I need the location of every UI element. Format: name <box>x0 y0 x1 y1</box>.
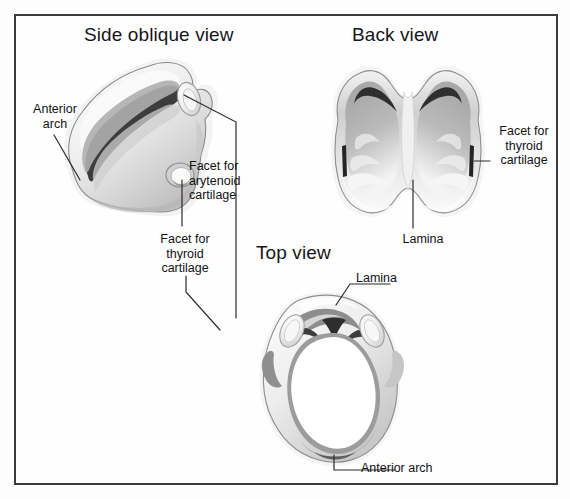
label-lamina-back: Lamina <box>396 232 450 247</box>
label-anterior-arch-side: Anterior arch <box>22 102 88 131</box>
label-facet-for-thyroid-cartilage-side: Facet for thyroid cartilage <box>150 232 220 276</box>
figure-root: Side oblique view Back view Top view Ant… <box>0 0 570 499</box>
view-title-side-oblique: Side oblique view <box>84 24 234 46</box>
label-lamina-top: Lamina <box>356 271 410 286</box>
label-facet-for-arytenoid-cartilage: Facet for arytenoid cartilage <box>189 159 261 203</box>
label-facet-for-thyroid-cartilage-back: Facet for thyroid cartilage <box>492 124 556 168</box>
label-anterior-arch-top: Anterior arch <box>361 461 453 476</box>
view-title-back: Back view <box>352 24 438 46</box>
view-title-top: Top view <box>256 242 331 264</box>
